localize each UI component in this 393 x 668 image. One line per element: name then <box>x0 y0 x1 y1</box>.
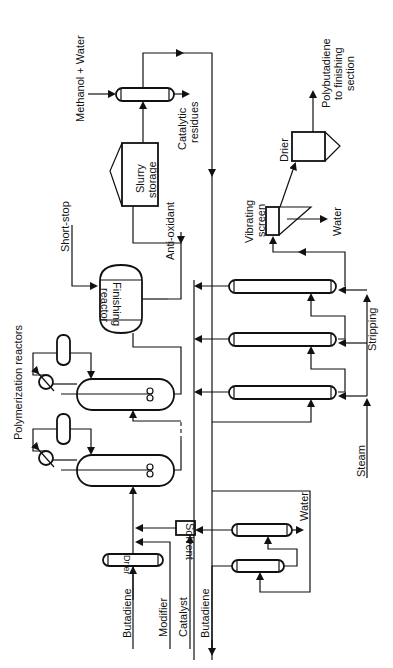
label-short-stop: Short-stop <box>59 201 71 252</box>
process-flow-diagram: Methanol + Water Catalytic residues Slur… <box>0 0 393 668</box>
label-catalyst: Catalyst <box>177 597 189 637</box>
short-stop-line <box>72 225 96 286</box>
solvent-recovery-column-1 <box>232 524 292 536</box>
condenser-2-line <box>33 353 57 375</box>
condenser-2 <box>38 373 54 391</box>
polymerization-reactor-2 <box>61 379 174 410</box>
reflux-1-line <box>70 429 91 453</box>
label-water-wash: Water <box>298 492 310 521</box>
label-stripping: Stripping <box>366 308 378 351</box>
slurry-to-stripper-line <box>212 401 311 422</box>
reflux-2-line <box>70 353 91 377</box>
label-polymerization-reactors: Polymerization reactors <box>12 325 24 440</box>
label-section: section <box>344 56 356 91</box>
label-slurry: Slurry <box>134 164 146 193</box>
label-catalytic-residues-2: residues <box>188 101 200 143</box>
methanol-wash-column <box>116 88 174 101</box>
stripper-overhead-line <box>212 491 310 592</box>
butadiene-recycle-line <box>212 566 232 649</box>
label-screen: screen <box>255 204 267 237</box>
label-to-finishing: to finishing <box>332 47 344 100</box>
reflux-drum-1 <box>57 414 70 444</box>
label-solvent: Solvent <box>184 523 196 560</box>
label-finishing: Finishing <box>111 282 123 326</box>
label-catalytic-residues-1: Catalytic <box>176 107 188 150</box>
stripping-column-1 <box>229 386 336 399</box>
label-drier-product: Drier <box>278 138 290 162</box>
label-water-screen: Water <box>331 207 343 236</box>
label-anti-oxidant: Anti-oxidant <box>164 202 176 260</box>
label-polybutadiene: Polybutadiene <box>320 38 332 108</box>
vibrating-screen <box>266 207 311 235</box>
label-vibrating: Vibrating <box>243 200 255 243</box>
stripping-column-2 <box>229 333 336 346</box>
label-reactor: reactor <box>99 288 111 323</box>
label-storage: storage <box>146 161 158 198</box>
reflux-drum-2 <box>57 335 70 365</box>
stripper-to-screen-line <box>273 238 345 286</box>
label-methanol-water: Methanol + Water <box>74 35 86 122</box>
label-butadiene-feed: Butadiene <box>121 588 133 638</box>
label-drier-feed: Drier <box>122 555 132 575</box>
condenser-1-line <box>33 429 57 451</box>
polymerization-reactor-1 <box>61 455 174 486</box>
solvent-recovery-column-2 <box>232 560 284 572</box>
screen-to-drier-line <box>280 164 295 207</box>
reactor1-to-reactor2-line <box>133 412 181 421</box>
feed-drier <box>103 554 163 566</box>
label-modifier: Modifier <box>157 598 169 637</box>
product-drier <box>292 132 340 161</box>
reactor1-outlet <box>174 440 181 470</box>
label-butadiene-recycle: Butadiene <box>199 588 211 638</box>
stripping-column-3 <box>229 280 336 293</box>
label-steam: Steam <box>355 445 367 477</box>
condenser-1 <box>38 449 54 467</box>
